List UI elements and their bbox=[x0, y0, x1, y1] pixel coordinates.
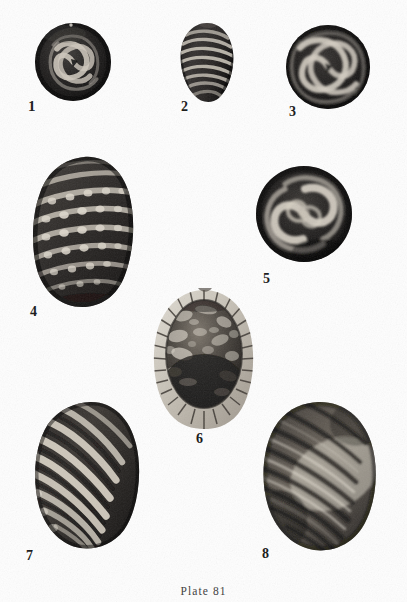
figure-number-6: 6 bbox=[196, 432, 203, 446]
specimen-figure-8 bbox=[256, 400, 382, 554]
figure-number-4: 4 bbox=[30, 305, 37, 319]
plate-sheet: 1 bbox=[0, 0, 407, 602]
specimen-figure-3 bbox=[285, 24, 371, 110]
specimen-figure-2 bbox=[176, 22, 238, 104]
figure-number-8: 8 bbox=[262, 547, 269, 561]
specimen-figure-6 bbox=[148, 288, 260, 430]
plate-caption: Plate 81 bbox=[0, 585, 407, 597]
figure-number-1: 1 bbox=[28, 99, 36, 114]
figure-number-2: 2 bbox=[181, 100, 188, 114]
figure-number-3: 3 bbox=[289, 105, 296, 119]
specimen-figure-7 bbox=[30, 400, 146, 552]
specimen-figure-4 bbox=[30, 155, 138, 309]
figure-number-5: 5 bbox=[263, 272, 270, 286]
figure-number-7: 7 bbox=[26, 549, 33, 563]
specimen-figure-5 bbox=[255, 165, 353, 263]
specimen-figure-1 bbox=[34, 22, 112, 104]
